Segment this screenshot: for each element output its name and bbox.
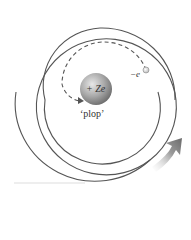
spiral-middle-arc [36,39,176,175]
spiral-outer-arc [15,92,150,181]
electron-charge-label: −e [130,70,140,79]
plop-label: ‘plop’ [80,109,104,119]
nucleus-charge-label: + Ze [86,84,105,94]
electron [143,67,149,73]
